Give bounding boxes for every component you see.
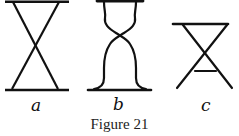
panel-c-glyph xyxy=(173,24,232,88)
panel-c-label: c xyxy=(201,97,211,114)
figure-caption: Figure 21 xyxy=(0,117,239,132)
panel-a-glyph xyxy=(5,2,69,90)
panel-b-glyph xyxy=(88,1,151,90)
panel-b-label: b xyxy=(113,96,124,113)
panel-a-label: a xyxy=(31,97,41,114)
